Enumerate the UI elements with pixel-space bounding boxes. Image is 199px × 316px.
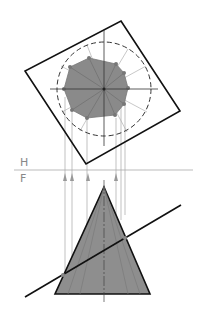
projection-drawing <box>0 0 199 316</box>
arrow-icons <box>63 173 118 181</box>
front-view <box>25 180 181 302</box>
top-view <box>25 21 180 164</box>
fold-label-h: H <box>20 157 28 168</box>
cone-triangle <box>55 187 150 294</box>
fold-label-f: F <box>20 173 26 184</box>
